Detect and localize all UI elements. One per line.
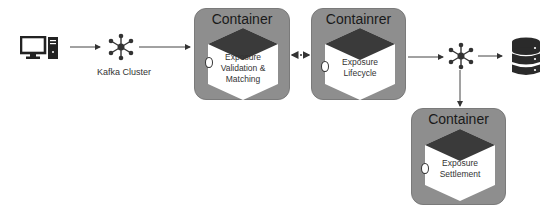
container-validation-matching[interactable]: Container Exposure Validation & Matching [194,8,290,100]
kafka-cluster-label: Kafka Cluster [97,67,151,77]
container-title: Container [195,11,289,27]
container-title: Containrer [312,11,405,27]
hub-network-icon [447,42,475,70]
service-label: Exposure Settlement [425,158,495,180]
database-icon [511,37,541,77]
service-label: Exposure Validation & Matching [208,52,278,85]
desktop-computer-icon [20,36,60,60]
container-settlement[interactable]: Container Exposure Settlement [411,108,506,205]
service-label: Exposure Lifecycle [325,57,395,79]
hub-network-icon [107,33,135,61]
container-title: Container [412,111,505,127]
container-lifecycle[interactable]: Containrer Exposure Lifecycle [311,8,406,100]
